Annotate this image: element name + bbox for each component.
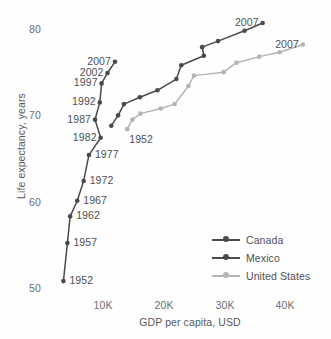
data-point[interactable] — [81, 179, 86, 184]
data-point[interactable] — [192, 73, 197, 78]
data-point[interactable] — [172, 102, 177, 107]
data-point[interactable] — [216, 39, 221, 44]
legend-swatch-mexico — [212, 252, 240, 263]
series-line-canada — [111, 23, 262, 126]
legend-marker-icon — [223, 254, 229, 260]
data-point[interactable] — [138, 95, 143, 100]
x-tick-label-20k: 20K — [147, 299, 181, 311]
x-tick-label-40k: 40K — [268, 299, 302, 311]
data-point[interactable] — [99, 81, 104, 86]
point-label-canada-2007: 2007 — [232, 16, 259, 28]
legend-marker-icon — [223, 272, 229, 278]
data-point[interactable] — [159, 106, 164, 111]
data-point[interactable] — [122, 102, 127, 107]
legend-label-united-states: United States — [246, 270, 310, 282]
point-label-united-states-2007: 2007 — [272, 38, 299, 50]
point-label-mexico-1977: 1977 — [95, 148, 119, 160]
point-label-mexico-1987: 1987 — [64, 113, 91, 125]
x-tick-label-10k: 10K — [86, 299, 120, 311]
data-point[interactable] — [65, 241, 70, 246]
data-point[interactable] — [125, 127, 130, 132]
data-point[interactable] — [105, 71, 110, 76]
plot-area — [0, 0, 331, 339]
data-point[interactable] — [138, 111, 143, 116]
legend-swatch-canada — [212, 234, 240, 245]
data-point[interactable] — [234, 60, 239, 65]
point-label-mexico-1957: 1957 — [73, 236, 97, 248]
chart-plot-svg — [0, 0, 331, 339]
data-point[interactable] — [202, 53, 207, 58]
y-tick-label-50: 50 — [17, 282, 41, 294]
point-label-mexico-1967: 1967 — [83, 194, 107, 206]
legend-label-canada: Canada — [246, 234, 283, 246]
legend-marker-icon — [223, 236, 229, 242]
data-point[interactable] — [301, 42, 306, 47]
point-label-mexico-1962: 1962 — [76, 209, 100, 221]
data-point[interactable] — [109, 123, 114, 128]
point-label-mexico-2002: 2002 — [77, 66, 104, 78]
data-point[interactable] — [93, 117, 98, 122]
legend-label-mexico: Mexico — [246, 252, 280, 264]
data-point[interactable] — [87, 153, 92, 158]
x-tick-label-30k: 30K — [208, 299, 242, 311]
data-point[interactable] — [221, 70, 226, 75]
data-point[interactable] — [155, 88, 160, 93]
point-label-mexico-1997: 1997 — [71, 76, 98, 88]
legend-swatch-united-states — [212, 270, 240, 281]
point-label-mexico-1972: 1972 — [90, 174, 114, 186]
point-label-mexico-1952: 1952 — [69, 274, 93, 286]
data-point[interactable] — [130, 117, 135, 122]
data-point[interactable] — [257, 54, 262, 59]
data-point[interactable] — [61, 279, 66, 284]
data-point[interactable] — [200, 45, 205, 50]
point-label-mexico-2007: 2007 — [84, 55, 111, 67]
data-point[interactable] — [186, 84, 191, 89]
point-label-mexico-1982: 1982 — [70, 131, 97, 143]
data-point[interactable] — [242, 28, 247, 33]
data-point[interactable] — [179, 63, 184, 68]
legend-item-canada[interactable]: Canada — [212, 232, 310, 247]
chart-container: 80 70 60 50 10K 20K 30K 40K Life expecta… — [0, 0, 331, 339]
data-point[interactable] — [113, 60, 118, 65]
data-point[interactable] — [116, 113, 121, 118]
x-axis-title: GDP per capita, USD — [60, 316, 320, 328]
data-point[interactable] — [68, 214, 73, 219]
data-point[interactable] — [98, 100, 103, 105]
data-point[interactable] — [174, 77, 179, 82]
data-point[interactable] — [98, 135, 103, 140]
series-line-united-states — [127, 45, 303, 130]
y-tick-label-80: 80 — [17, 23, 41, 35]
point-label-mexico-1992: 1992 — [69, 95, 96, 107]
data-point[interactable] — [75, 199, 80, 204]
data-point[interactable] — [277, 50, 282, 55]
legend-item-mexico[interactable]: Mexico — [212, 250, 310, 265]
data-point[interactable] — [260, 21, 265, 26]
legend-item-united-states[interactable]: United States — [212, 268, 310, 283]
chart-legend: Canada Mexico United States — [212, 232, 310, 283]
y-axis-title: Life expectancy, years — [15, 86, 27, 206]
point-label-united-states-1952: 1952 — [129, 133, 153, 145]
